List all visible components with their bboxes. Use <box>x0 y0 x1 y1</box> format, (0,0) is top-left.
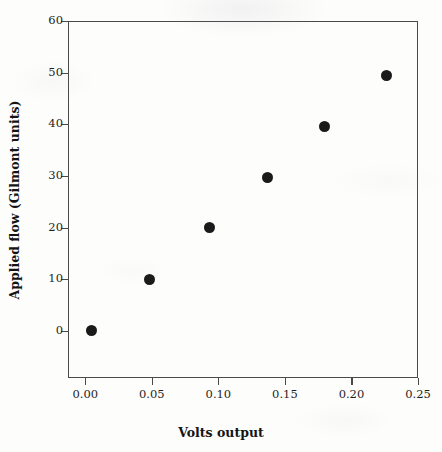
x-tick-mark <box>152 378 153 385</box>
data-point <box>144 274 155 285</box>
data-points-layer <box>68 21 418 378</box>
y-tick-label: 50 <box>48 67 63 79</box>
data-point <box>86 325 97 336</box>
x-tick-mark <box>351 378 352 385</box>
x-tick-mark <box>218 378 219 385</box>
y-axis-label: Applied flow (Gilmont units) <box>7 101 22 300</box>
data-point <box>204 222 215 233</box>
x-tick-label: 0.20 <box>339 389 365 401</box>
y-tick-label: 20 <box>48 222 63 234</box>
x-tick-mark <box>85 378 86 385</box>
x-tick-label: 0.10 <box>206 389 232 401</box>
x-tick-label: 0.00 <box>72 389 98 401</box>
y-tick-label: 10 <box>48 274 63 286</box>
data-point <box>381 70 392 81</box>
x-tick-label: 0.25 <box>405 389 431 401</box>
y-tick-label: 30 <box>48 170 63 182</box>
x-axis-label: Volts output <box>0 425 442 440</box>
x-tick-label: 0.15 <box>272 389 298 401</box>
scatter-plot-figure: 0102030405060 0.000.050.100.150.200.25 A… <box>0 0 442 452</box>
x-tick-mark <box>285 378 286 385</box>
y-tick-label: 60 <box>48 15 63 27</box>
y-tick-label: 0 <box>56 325 63 337</box>
y-tick-label: 40 <box>48 119 63 131</box>
data-point <box>319 121 330 132</box>
data-point <box>262 172 273 183</box>
x-tick-mark <box>418 378 419 385</box>
x-tick-label: 0.05 <box>139 389 165 401</box>
